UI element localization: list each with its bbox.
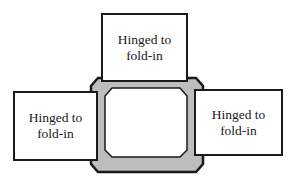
flap-right-line2: fold-in [212,123,266,139]
flap-left: Hinged to fold-in [13,91,98,161]
frame-window [105,88,187,157]
flap-top-line1: Hinged to [118,32,172,48]
flap-right-line1: Hinged to [212,107,266,123]
flap-left-line2: fold-in [29,126,83,142]
flap-left-line1: Hinged to [29,110,83,126]
flap-top-line2: fold-in [118,48,172,64]
fold-in-flaps-diagram: Hinged to fold-in Hinged to fold-in Hing… [0,0,292,180]
flap-top: Hinged to fold-in [101,13,188,82]
flap-right: Hinged to fold-in [194,89,283,156]
